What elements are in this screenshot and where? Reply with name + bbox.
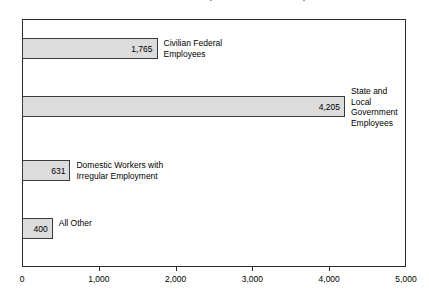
x-axis-tick-label: 4,000 <box>319 274 340 284</box>
bar-value-label: 631 <box>51 166 65 176</box>
x-axis-tick-label: 2,000 <box>165 274 186 284</box>
bar-value-label: 400 <box>34 224 48 234</box>
bar-value-label: 4,205 <box>319 102 340 112</box>
bar: 1,765 <box>22 38 158 59</box>
bar-chart: as of December 1997 (estimates in thousa… <box>0 0 429 296</box>
x-axis-tick <box>329 267 330 271</box>
x-axis-tick-label: 3,000 <box>242 274 263 284</box>
bar: 4,205 <box>22 96 345 117</box>
x-axis-tick-label: 0 <box>20 274 25 284</box>
bar-category-label: All Other <box>59 218 92 229</box>
bar-category-label: Domestic Workers with Irregular Employme… <box>76 160 163 181</box>
chart-title: as of December 1997 (estimates in thousa… <box>0 0 429 2</box>
x-axis-tick <box>252 267 253 271</box>
chart-title-clip: as of December 1997 (estimates in thousa… <box>0 0 429 3</box>
bar: 631 <box>22 160 70 181</box>
x-axis-tick-label: 5,000 <box>395 274 416 284</box>
x-axis-tick-label: 1,000 <box>88 274 109 284</box>
bar: 400 <box>22 218 53 239</box>
x-axis-tick <box>99 267 100 271</box>
x-axis-tick <box>176 267 177 271</box>
bar-category-label: State and Local Government Employees <box>351 86 398 128</box>
bar-value-label: 1,765 <box>131 44 152 54</box>
bar-category-label: Civilian Federal Employees <box>164 38 223 59</box>
